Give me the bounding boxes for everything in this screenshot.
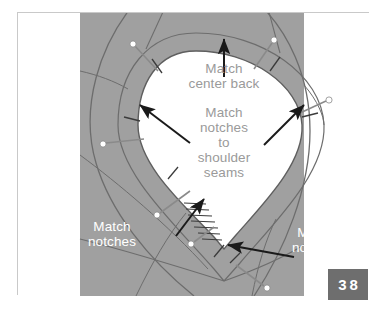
pin-head [326, 97, 332, 103]
pin-head [100, 141, 106, 147]
page-number-badge: 38 [328, 269, 368, 300]
pin-head [271, 37, 277, 43]
sewing-diagram-artwork [18, 13, 370, 296]
pin-head [264, 285, 270, 291]
pin-head [188, 241, 194, 247]
pin-head [154, 212, 160, 218]
pin-head [130, 41, 136, 47]
illustration-page: Match center back Match notches to shoul… [0, 0, 385, 312]
illustration-frame: Match center back Match notches to shoul… [17, 12, 369, 295]
